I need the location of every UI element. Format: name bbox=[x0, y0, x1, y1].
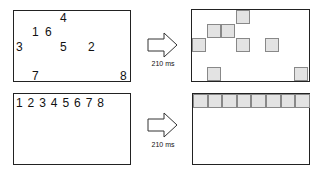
number-sequence: 1 2 3 4 5 6 7 8 bbox=[16, 97, 104, 109]
scattered-number: 4 bbox=[60, 12, 67, 24]
bottom-delay-label: 210 ms bbox=[143, 141, 183, 148]
highlight-square bbox=[236, 10, 250, 24]
highlight-square bbox=[207, 24, 221, 38]
highlight-square bbox=[295, 94, 310, 108]
highlight-square bbox=[236, 38, 250, 52]
highlight-square bbox=[193, 94, 208, 108]
highlight-square bbox=[192, 38, 206, 52]
highlight-square bbox=[237, 94, 252, 108]
highlight-square bbox=[221, 24, 235, 38]
highlight-square bbox=[281, 94, 296, 108]
right-arrow-icon bbox=[147, 32, 179, 58]
top-delay-label: 210 ms bbox=[143, 60, 183, 67]
scattered-number: 6 bbox=[45, 26, 52, 38]
highlight-square bbox=[208, 94, 223, 108]
scattered-number: 8 bbox=[120, 70, 127, 82]
scattered-number: 2 bbox=[88, 41, 95, 53]
highlight-square bbox=[294, 67, 308, 81]
highlight-square bbox=[265, 38, 279, 52]
highlight-square bbox=[222, 94, 237, 108]
bottom-right-square-row bbox=[193, 94, 310, 108]
scattered-number: 1 bbox=[32, 26, 39, 38]
scattered-number: 7 bbox=[32, 70, 39, 82]
highlight-square bbox=[251, 94, 266, 108]
scattered-number: 3 bbox=[16, 41, 23, 53]
top-left-panel bbox=[13, 10, 131, 82]
right-arrow-icon bbox=[147, 112, 179, 138]
highlight-square bbox=[266, 94, 281, 108]
scattered-number: 5 bbox=[60, 41, 67, 53]
highlight-square bbox=[207, 67, 221, 81]
